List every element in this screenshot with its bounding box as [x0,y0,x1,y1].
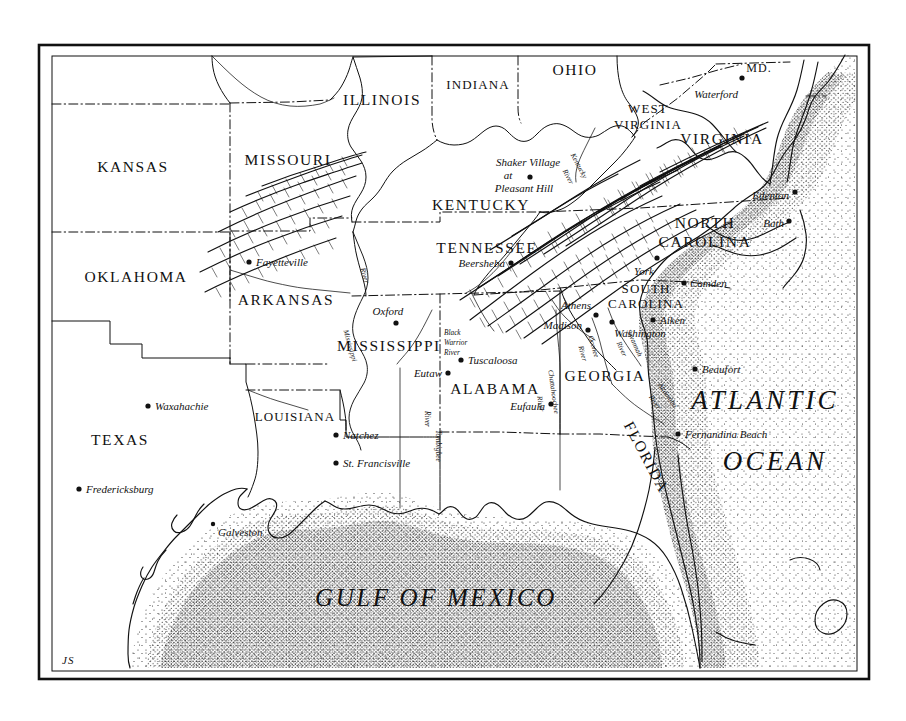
state-label-south-carolina-line1: SOUTH [622,281,671,296]
river-label-kentucky-line2: River [560,167,576,186]
state-label-north-carolina-line1: NORTH [675,214,735,231]
city-label-beersheba: Beersheba [459,257,506,269]
river-red [248,390,308,410]
city-label-natchez: Natchez [342,429,379,441]
state-label-south-carolina-line2: CAROLINA [608,296,684,311]
site-shaker-village: Shaker Village at Pleasant Hill [494,156,560,194]
ozark-mountains [200,152,366,297]
site-label-shaker-village-line3: Pleasant Hill [494,182,553,194]
city-dot-natchez [333,432,338,437]
city-dot-fredericksburg [76,486,81,491]
map-root: KANSAS MISSOURI ILLINOIS INDIANA OHIO WE… [0,0,906,721]
border-kentucky-tennessee [352,212,540,222]
city-label-aiken: Aiken [659,314,686,326]
border-illinois-indiana [432,56,437,140]
city-dot-galveston [211,522,215,526]
river-label-oconee-line2: River [576,344,589,363]
city-dot-bath [786,218,791,223]
border-louisiana-east [340,390,346,430]
gulf-label: GULF OF MEXICO [315,584,557,611]
city-dot-beaufort [692,366,697,371]
city-label-galveston: Galveston [218,526,263,538]
city-dot-eutaw [445,370,450,375]
city-dot-madison [585,327,590,332]
city-label-athens: Athens [560,299,591,311]
border-illinois-missouri [348,57,366,222]
state-label-west-virginia-line2: VIRGINIA [614,117,682,132]
city-label-oxford: Oxford [373,305,404,317]
state-label-virginia: VIRGINIA [680,130,763,147]
city-label-waxahachie: Waxahachie [155,400,208,412]
city-dot-waterford [739,75,744,80]
city-dot-washington [609,319,614,324]
river-label-chattahoochee-line1: Chattahoochee [546,369,561,415]
river-label-black-warrior-line2: Warrior [444,338,467,347]
texas-south-coast-inlet [133,578,144,604]
border-tennessee-south [352,291,560,296]
city-label-st-francisville: St. Francisville [343,457,410,469]
border-texas-louisiana [230,364,258,497]
city-dot-beersheba [508,260,513,265]
border-tennessee-west [353,232,366,296]
border-westvirginia-maryland [660,64,742,85]
city-label-fredericksburg: Fredericksburg [85,483,154,495]
city-label-bath: Bath [763,217,784,229]
border-indiana-ohio [518,56,521,123]
river-label-tombigbee-line2: River [423,410,432,427]
border-georgia-florida [560,434,668,437]
state-label-north-carolina-line2: CAROLINA [659,233,752,250]
border-oklahoma-texas [52,321,230,358]
city-dot-camden [681,280,686,285]
city-dot-fernandina-beach [675,431,680,436]
state-label-kansas: KANSAS [97,158,169,175]
river-label-savannah-line2: River [614,339,629,358]
state-label-ohio: OHIO [552,61,597,78]
state-label-indiana: INDIANA [446,77,509,92]
city-label-washington: Washington [614,327,666,339]
gulf-of-mexico-water [120,480,720,680]
state-label-illinois: ILLINOIS [343,91,421,108]
city-dot-tuscaloosa [458,357,463,362]
state-label-missouri: MISSOURI [245,151,332,168]
river-label-black-warrior-line3: River [443,348,460,357]
city-dot-st-francisville [333,460,338,465]
state-label-tennessee: TENNESSEE [436,239,537,256]
city-label-tuscaloosa: Tuscaloosa [468,354,518,366]
city-dot-oxford [393,320,398,325]
river-label-tombigbee-line1: Tombigbee [434,430,443,463]
city-dot-edenton [792,189,797,194]
border-ohio-river-kentucky [437,124,635,145]
state-label-louisiana: LOUISIANA [255,409,336,424]
border-missouri-nebraska [212,56,230,103]
city-label-camden: Camden [690,277,727,289]
state-label-kentucky: KENTUCKY [432,196,530,213]
city-label-york: York [634,265,655,277]
river-label-black-warrior-line1: Black [444,328,461,337]
city-label-fernandina-beach: Fernandina Beach [684,428,768,440]
city-label-fayetteville: Fayetteville [255,256,308,268]
artist-signature: JS [62,654,74,666]
border-alabama-florida [440,432,560,434]
ocean-label-atlantic-line1: ATLANTIC [689,385,839,415]
city-label-waterford: Waterford [694,88,738,100]
border-kentucky-west [353,140,437,232]
site-label-shaker-village-line1: Shaker Village [496,156,560,168]
city-dot-athens [593,312,598,317]
state-label-alabama: ALABAMA [450,380,540,397]
state-label-west-virginia-line1: WEST [628,101,668,116]
river-missouri [212,56,334,106]
city-dot-waxahachie [145,403,150,408]
city-label-beaufort: Beaufort [702,363,741,375]
site-dot-shaker-village [527,174,532,179]
city-dot-aiken [650,317,655,322]
ocean-label-atlantic-line2: OCEAN [723,446,828,476]
city-dot-fayetteville [246,259,251,264]
map-canvas: KANSAS MISSOURI ILLINOIS INDIANA OHIO WE… [0,0,906,721]
state-label-oklahoma: OKLAHOMA [84,268,187,285]
city-dot-york [654,255,659,260]
state-label-arkansas: ARKANSAS [238,291,334,308]
state-label-texas: TEXAS [91,431,149,448]
site-label-shaker-village-line2: at [504,169,514,181]
border-missouri-iowa [230,100,330,103]
texas-barrier-islands [172,504,204,533]
